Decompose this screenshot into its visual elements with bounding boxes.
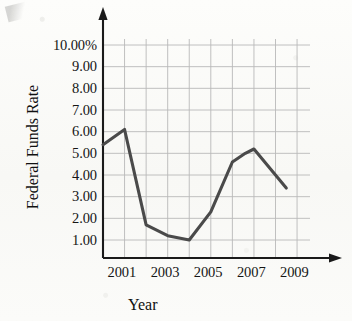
y-tick-label: 3.00 bbox=[72, 189, 97, 204]
y-tick-label: 8.00 bbox=[72, 81, 97, 96]
y-tick-label: 4.00 bbox=[72, 168, 97, 183]
y-tick-label: 6.00 bbox=[72, 124, 97, 139]
x-tick-label: 2003 bbox=[151, 265, 180, 280]
y-tick-label: 1.00 bbox=[72, 233, 97, 248]
x-tick-label: 2001 bbox=[108, 265, 137, 280]
y-tick-label: 5.00 bbox=[72, 146, 97, 161]
x-axis-title: Year bbox=[128, 296, 157, 314]
y-tick-label: 10.00% bbox=[53, 38, 97, 53]
x-tick-label: 2007 bbox=[237, 265, 266, 280]
y-tick-label: 2.00 bbox=[72, 211, 97, 226]
x-tick-label: 2009 bbox=[280, 265, 309, 280]
x-tick-label: 2005 bbox=[194, 265, 223, 280]
y-tick-label: 7.00 bbox=[72, 103, 97, 118]
federal-funds-rate-chart: 10.00%9.008.007.006.005.004.003.002.001.… bbox=[0, 0, 352, 321]
y-tick-label: 9.00 bbox=[72, 59, 97, 74]
y-axis-title: Federal Funds Rate bbox=[24, 62, 42, 232]
horizontal-gridlines bbox=[103, 45, 310, 240]
vertical-gridlines bbox=[125, 39, 298, 258]
data-line-series bbox=[103, 130, 286, 241]
